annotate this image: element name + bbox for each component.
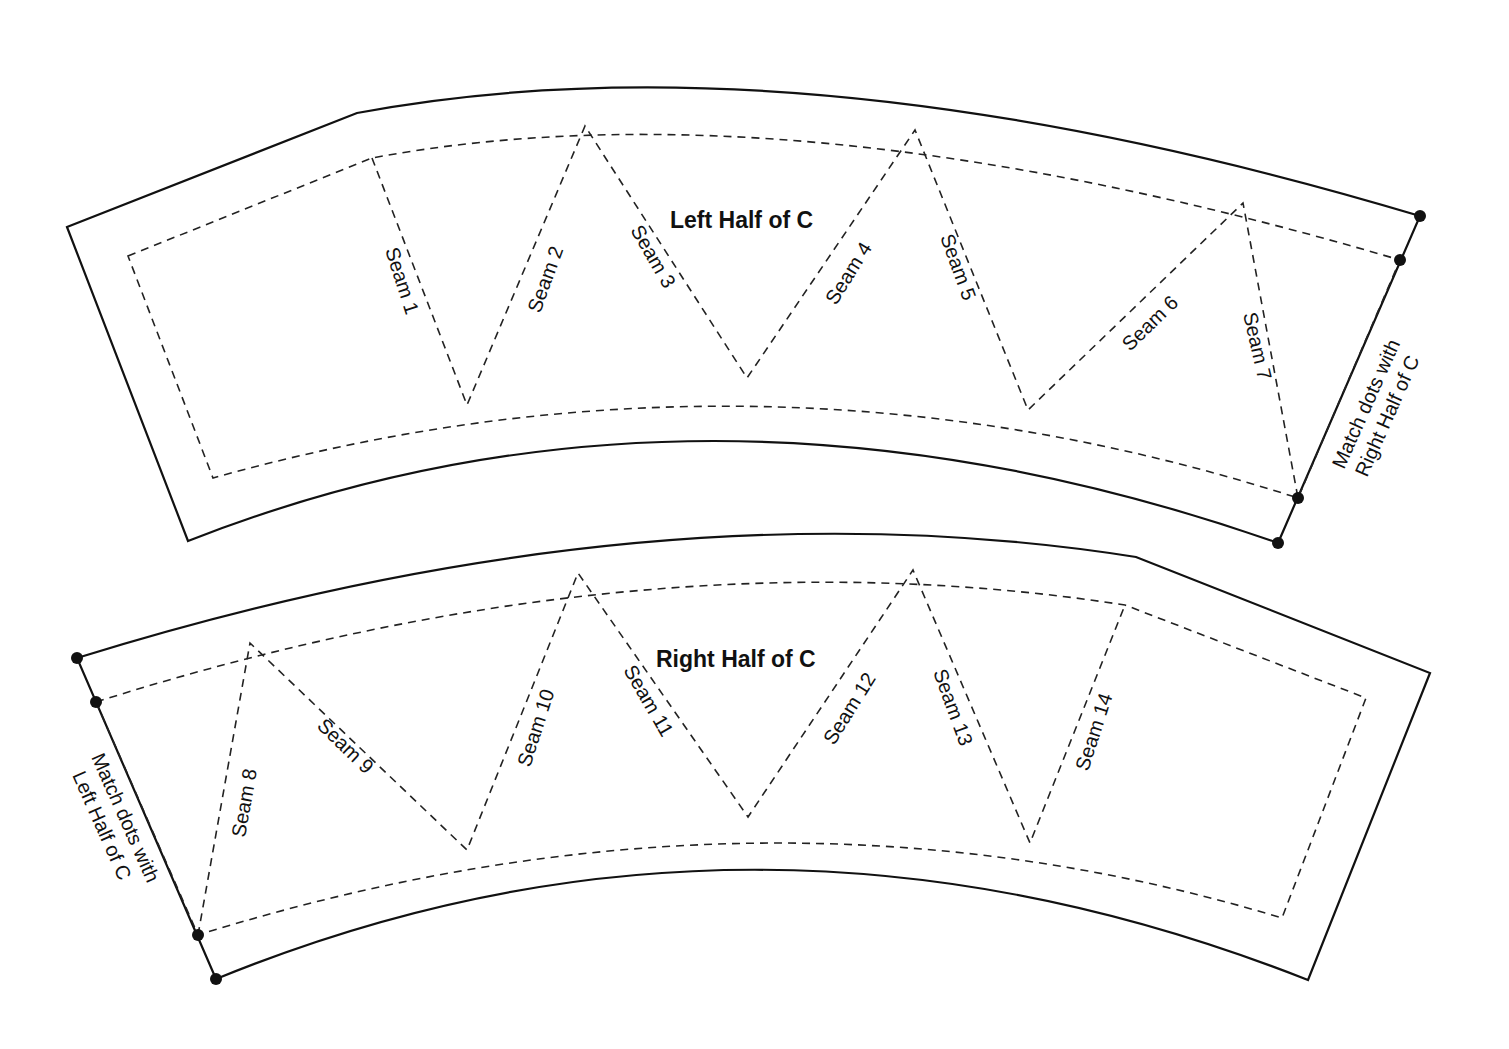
match-dot xyxy=(1414,210,1426,222)
right-piece-title: Right Half of C xyxy=(656,646,816,672)
seam-label: Seam 12 xyxy=(819,669,880,749)
seam-label: Seam 13 xyxy=(929,666,977,749)
seam-label: Seam 6 xyxy=(1117,291,1182,355)
match-dot xyxy=(1292,492,1304,504)
seam-label: Seam 7 xyxy=(1239,310,1276,382)
right-outer-cut-line xyxy=(77,534,1430,980)
left-piece-title: Left Half of C xyxy=(670,207,813,233)
right-half-piece: Right Half of C Seam 8 Seam 9 Seam 10 Se… xyxy=(68,534,1430,985)
seam-label: Seam 1 xyxy=(381,244,423,316)
left-half-piece: Left Half of C Seam 1 Seam 2 Seam 3 Seam… xyxy=(67,87,1426,549)
left-sewing-line xyxy=(128,134,1400,498)
seam-label: Seam 10 xyxy=(513,686,559,769)
seam-label: Seam 8 xyxy=(227,767,261,839)
seam-label: Seam 5 xyxy=(936,231,980,303)
pattern-canvas: Left Half of C Seam 1 Seam 2 Seam 3 Seam… xyxy=(0,0,1509,1049)
match-dot xyxy=(192,929,204,941)
match-dot xyxy=(71,652,83,664)
seam-label: Seam 9 xyxy=(313,714,378,778)
seam-label: Seam 14 xyxy=(1071,690,1117,773)
left-outer-cut-line xyxy=(67,87,1420,543)
right-sewing-line xyxy=(96,582,1366,935)
seam-label: Seam 4 xyxy=(821,238,876,308)
seam-label: Seam 11 xyxy=(620,661,678,740)
match-dot xyxy=(210,973,222,985)
match-dot xyxy=(1394,254,1406,266)
match-dot xyxy=(1272,537,1284,549)
seam-label: Seam 2 xyxy=(523,243,567,315)
match-dot xyxy=(90,696,102,708)
